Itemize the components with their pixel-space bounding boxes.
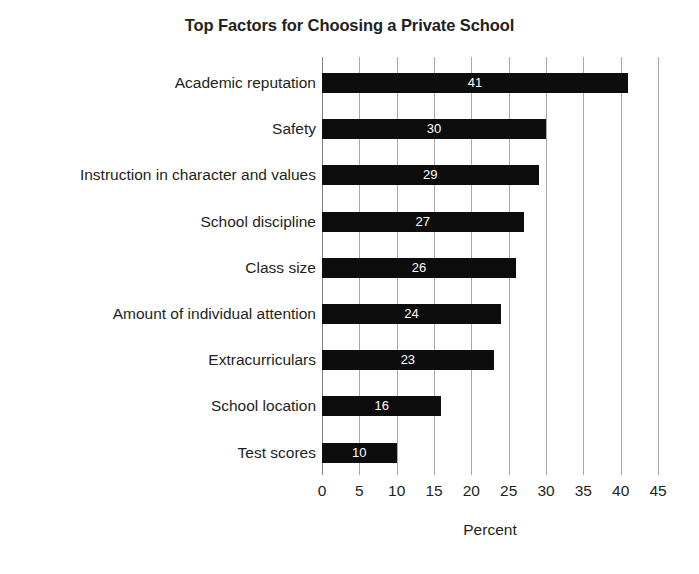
bar-row: 26 xyxy=(322,258,658,278)
bar-value-label: 27 xyxy=(322,212,524,232)
bar-row: 10 xyxy=(322,443,658,463)
category-label: Amount of individual attention xyxy=(113,304,316,324)
bar-value-label: 26 xyxy=(322,258,516,278)
bar-row: 24 xyxy=(322,304,658,324)
chart-title: Top Factors for Choosing a Private Schoo… xyxy=(0,16,699,35)
x-tick-label: 5 xyxy=(339,482,379,500)
category-label: Class size xyxy=(245,258,316,278)
bar-row: 41 xyxy=(322,73,658,93)
bar-value-label: 30 xyxy=(322,119,546,139)
category-label: Safety xyxy=(272,119,316,139)
category-label: Instruction in character and values xyxy=(80,165,316,185)
value-axis-tick-labels: 051015202530354045 xyxy=(322,482,658,506)
gridline-45 xyxy=(658,57,659,475)
x-tick-label: 20 xyxy=(451,482,491,500)
bar-value-label: 29 xyxy=(322,165,539,185)
bar-row: 29 xyxy=(322,165,658,185)
category-label: School discipline xyxy=(201,212,316,232)
bar-value-label: 24 xyxy=(322,304,501,324)
x-tick-label: 30 xyxy=(526,482,566,500)
bar-row: 27 xyxy=(322,212,658,232)
x-tick-label: 45 xyxy=(638,482,678,500)
bar-row: 23 xyxy=(322,350,658,370)
x-axis-title: Percent xyxy=(322,521,658,539)
category-label: School location xyxy=(211,396,316,416)
x-tick-label: 15 xyxy=(414,482,454,500)
category-label: Test scores xyxy=(238,443,316,463)
x-tick-label: 35 xyxy=(563,482,603,500)
bars: 413029272624231610 xyxy=(322,57,658,475)
bar-value-label: 10 xyxy=(322,443,397,463)
bar-value-label: 41 xyxy=(322,73,628,93)
category-label: Extracurriculars xyxy=(208,350,316,370)
x-tick-label: 0 xyxy=(302,482,342,500)
bar-row: 30 xyxy=(322,119,658,139)
bar-value-label: 23 xyxy=(322,350,494,370)
x-tick-label: 40 xyxy=(601,482,641,500)
bar-row: 16 xyxy=(322,396,658,416)
x-tick-label: 25 xyxy=(489,482,529,500)
plot-area: 413029272624231610 xyxy=(322,57,658,475)
bar-chart: Top Factors for Choosing a Private Schoo… xyxy=(0,0,699,574)
x-tick-label: 10 xyxy=(377,482,417,500)
category-label: Academic reputation xyxy=(175,73,316,93)
bar-value-label: 16 xyxy=(322,396,441,416)
category-axis-labels: Academic reputationSafetyInstruction in … xyxy=(0,57,316,475)
